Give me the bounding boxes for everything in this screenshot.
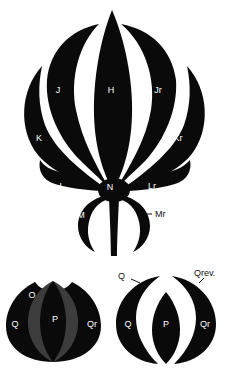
label-q-callout: Q [118,271,125,281]
label-lr: Lr [148,181,156,191]
horn-m [78,196,106,252]
label-qr-right: Qr [200,319,210,329]
label-qrev: Qrev. [194,268,215,278]
sphere-left: O Q P Qr [6,281,101,362]
label-q-right: Q [124,319,131,329]
stem [109,198,119,256]
label-j: J [56,85,61,95]
label-m: M [77,210,85,220]
label-k: K [36,133,42,143]
petal-h [94,10,132,190]
label-h: H [108,85,115,95]
label-kr: Kr [174,133,183,143]
label-o: O [28,290,35,300]
label-jr: Jr [154,85,162,95]
label-qr-left: Qr [87,319,97,329]
sphere-right: Q Qrev. Q P Qr [116,268,216,364]
label-l: L [59,181,64,191]
q-callout-line [131,279,140,283]
label-n: N [107,182,114,192]
label-mr: Mr [155,209,166,219]
label-p-right: P [163,319,169,329]
qrev-callout-line [199,278,204,283]
horn-mr [122,196,150,252]
diagram-canvas: J H Jr K Kr L N Lr M Mr O Q P Qr Q Qrev.… [0,0,229,368]
label-p-left: P [52,314,58,324]
flower-figure: J H Jr K Kr L N Lr M Mr [24,10,205,256]
label-q-left: Q [11,319,18,329]
